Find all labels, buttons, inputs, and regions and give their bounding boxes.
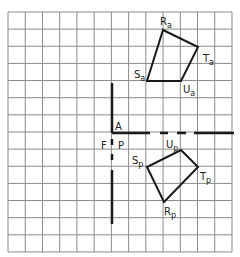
label-f: F <box>101 140 107 151</box>
label-sp: Sp <box>132 155 143 169</box>
label-a: A <box>115 121 122 132</box>
label-p: P <box>118 140 124 151</box>
elevation-quadrilateral <box>147 30 198 81</box>
plan-quadrilateral <box>147 150 198 202</box>
projection-diagram: A F P Ra Ta Ua Sa Up Tp Rp Sp <box>0 0 240 257</box>
label-ta: Ta <box>202 53 214 67</box>
label-ua: Ua <box>183 84 195 98</box>
label-ra: Ra <box>160 16 172 30</box>
label-up: Up <box>166 139 178 153</box>
